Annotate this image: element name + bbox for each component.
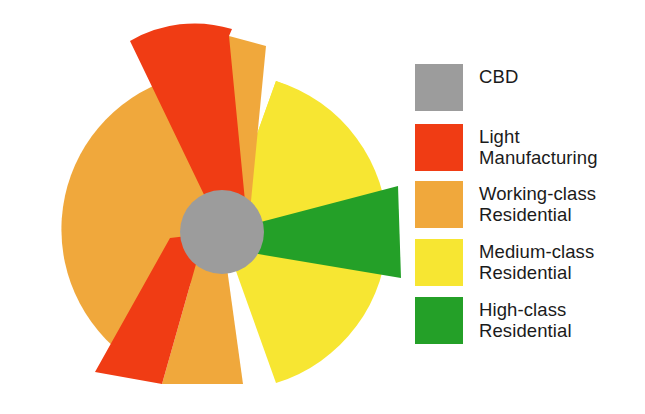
legend-label-cbd: CBD: [479, 64, 518, 88]
legend-item-high-class[interactable]: High-class Residential: [415, 297, 640, 344]
legend-swatch-high-class: [415, 297, 463, 344]
legend-item-medium-class[interactable]: Medium-class Residential: [415, 239, 640, 286]
diagram-canvas: [0, 0, 410, 414]
legend-label-working-class: Working-class Residential: [479, 181, 596, 225]
legend: CBD Light Manufacturing Working-class Re…: [415, 64, 640, 344]
legend-item-working-class[interactable]: Working-class Residential: [415, 181, 640, 228]
legend-swatch-medium-class: [415, 239, 463, 286]
legend-label-medium-class: Medium-class Residential: [479, 239, 594, 283]
sector-model-svg: [0, 0, 410, 414]
cbd-circle: [180, 190, 264, 274]
legend-label-light-manufacturing: Light Manufacturing: [479, 124, 598, 168]
legend-swatch-light-manufacturing: [415, 124, 463, 171]
legend-swatch-working-class: [415, 181, 463, 228]
legend-swatch-cbd: [415, 64, 463, 111]
sector-model-figure: CBD Light Manufacturing Working-class Re…: [0, 0, 645, 414]
legend-label-high-class: High-class Residential: [479, 297, 572, 341]
legend-item-light-manufacturing[interactable]: Light Manufacturing: [415, 124, 640, 171]
legend-item-cbd[interactable]: CBD: [415, 64, 640, 111]
